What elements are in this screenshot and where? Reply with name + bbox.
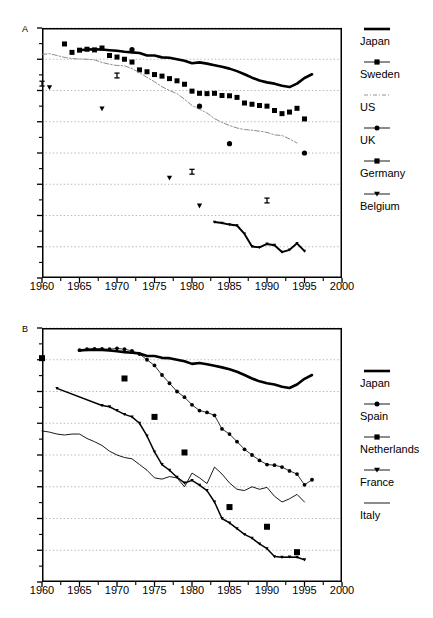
panel-a: A 0.10.20.30.40.50.60.70.80.9 1960196519… [0, 0, 433, 300]
series-sweden [62, 41, 307, 121]
data-point [190, 89, 195, 94]
data-point [235, 95, 240, 100]
data-point [294, 549, 300, 555]
data-point [250, 102, 255, 107]
series-belgium-series [213, 221, 306, 254]
data-point [257, 103, 262, 108]
data-point [213, 413, 217, 417]
data-point [152, 72, 157, 77]
data-point [197, 104, 202, 109]
data-point [197, 91, 202, 96]
data-point [123, 347, 127, 351]
data-point [205, 91, 210, 96]
series-france [55, 387, 306, 562]
data-point [243, 447, 247, 451]
panel-b-plot-area [42, 328, 342, 582]
legend-label: UK [360, 135, 375, 146]
data-point [288, 469, 292, 473]
data-point [303, 483, 307, 487]
data-point [152, 414, 158, 420]
legend-label: Belgium [360, 201, 400, 212]
data-point [93, 347, 97, 351]
data-point [220, 427, 224, 431]
legend-label: Netherlands [360, 444, 419, 455]
data-point [220, 93, 225, 98]
plot-frame [43, 29, 342, 278]
legend-key-thick-solid-line [360, 366, 394, 376]
series-uk [129, 47, 307, 156]
legend-marker [374, 434, 379, 439]
data-point [100, 347, 104, 351]
data-point [160, 74, 165, 79]
data-point [138, 352, 142, 356]
data-point [129, 47, 134, 52]
data-point [92, 47, 97, 52]
series-line [80, 348, 313, 485]
legend-label: France [360, 477, 394, 488]
data-point [295, 106, 300, 111]
data-point [115, 55, 120, 60]
data-point [258, 459, 262, 463]
legend-label: Germany [360, 168, 405, 179]
legend-key-triangle-marker-line [360, 465, 394, 475]
data-point [78, 348, 82, 352]
series-japan [80, 49, 313, 87]
data-point [197, 204, 202, 209]
data-point [107, 53, 112, 58]
data-point [160, 373, 164, 377]
legend-key-circle-marker-line [360, 399, 394, 409]
panel-b-chart-svg [42, 328, 342, 582]
data-point [122, 57, 127, 62]
legend-label: Japan [360, 378, 390, 389]
data-point [280, 111, 285, 116]
data-point [212, 91, 217, 96]
data-point [167, 76, 172, 81]
data-point [130, 349, 134, 353]
data-point [182, 449, 188, 455]
data-point [227, 504, 233, 510]
data-point [287, 110, 292, 115]
data-point [39, 355, 45, 361]
data-point [198, 409, 202, 413]
series-spain [78, 346, 314, 486]
series-line [42, 431, 305, 502]
series-line [80, 350, 313, 388]
panel-a-plot-area [42, 28, 342, 278]
data-point [272, 108, 277, 113]
data-point [265, 104, 270, 109]
data-point [227, 141, 232, 146]
legend-key-circle-marker-line [360, 123, 394, 133]
series-us [42, 54, 297, 143]
legend-key-thin-dashed-line [360, 90, 394, 100]
legend-key-thick-solid-line [360, 24, 394, 34]
data-point [235, 440, 239, 444]
data-point [167, 176, 172, 181]
legend-key-triangle-marker-line [360, 189, 394, 199]
data-point [85, 47, 90, 52]
legend-marker [374, 59, 379, 64]
legend-key-square-marker-line [360, 432, 394, 442]
data-point [182, 82, 187, 87]
data-point [47, 85, 52, 90]
legend-marker [374, 158, 379, 163]
panel-b-y-axis-labels: 0.10.20.30.40.50.60.70.80.9 [0, 300, 30, 618]
data-point [205, 411, 209, 415]
series-line [57, 388, 305, 559]
data-point [264, 524, 270, 530]
data-point [168, 381, 172, 385]
data-point [250, 453, 254, 457]
legend-key-thin-plain-line [360, 498, 394, 508]
legend-marker [375, 402, 380, 407]
data-point [242, 101, 247, 106]
legend-label: Sweden [360, 69, 400, 80]
data-point [70, 50, 75, 55]
data-point [145, 358, 149, 362]
legend-label: US [360, 102, 375, 113]
series-line [80, 49, 313, 87]
data-point [280, 465, 284, 469]
series-italy [42, 431, 305, 502]
panel-a-chart-svg [42, 28, 342, 278]
data-point [302, 150, 307, 155]
panel-b: B 0.10.20.30.40.50.60.70.80.9 1960196519… [0, 300, 433, 618]
series-line [42, 54, 297, 143]
